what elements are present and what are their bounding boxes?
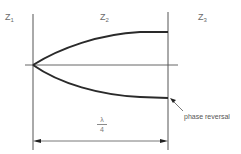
region-subscript: 2	[106, 17, 109, 23]
region-subscript: 1	[11, 17, 14, 23]
quarter-wave-transformer-diagram	[0, 0, 241, 154]
fraction-bar	[97, 124, 107, 125]
region-subscript: 3	[204, 17, 207, 23]
quarter-wavelength-label: λ 4	[97, 116, 107, 133]
lower-wave-curve	[33, 65, 168, 98]
dimension-arrow-left-icon	[33, 139, 41, 143]
phase-reversal-label: phase reversal	[184, 113, 230, 120]
upper-wave-curve	[33, 32, 168, 65]
fraction-denominator: 4	[100, 126, 104, 133]
region-label-z3: Z3	[198, 13, 207, 23]
fraction-numerator: λ	[100, 116, 104, 123]
dimension-arrow-right-icon	[160, 139, 168, 143]
region-label-z2: Z2	[100, 13, 109, 23]
pointer-arrowhead-icon	[170, 98, 176, 103]
region-label-z1: Z1	[5, 13, 14, 23]
